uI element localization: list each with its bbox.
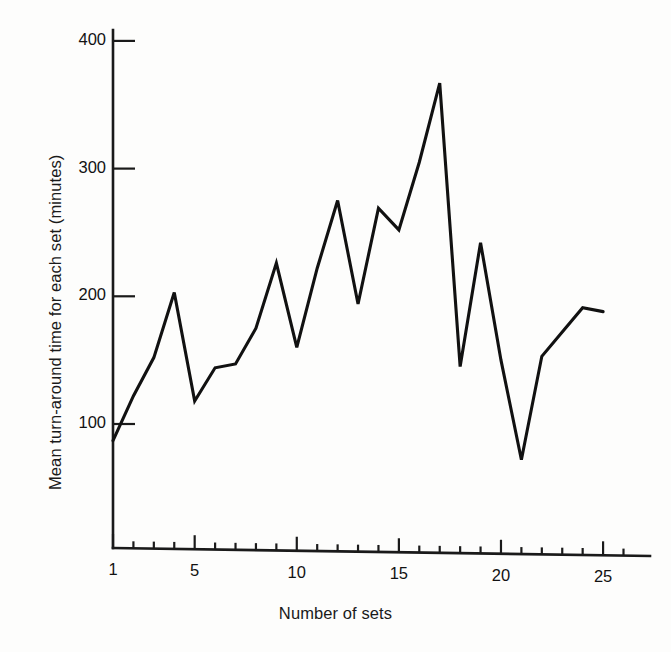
line-chart-plot <box>0 0 671 652</box>
chart-figure: 100200300400 1510152025 Mean turn-around… <box>0 0 671 652</box>
y-tick-label: 400 <box>52 30 106 49</box>
x-tick-label: 20 <box>481 566 521 585</box>
x-tick-label: 5 <box>175 561 215 580</box>
x-axis-title: Number of sets <box>0 604 671 623</box>
x-tick-label: 25 <box>583 567 623 586</box>
y-axis-title: Mean turn-around time for each set (minu… <box>46 155 65 490</box>
y-axis-ticks <box>113 41 135 424</box>
data-series-line <box>113 83 603 460</box>
x-tick-label: 10 <box>277 563 317 582</box>
x-tick-label: 1 <box>93 560 133 579</box>
x-tick-label: 15 <box>379 564 419 583</box>
x-axis-line <box>113 548 650 556</box>
